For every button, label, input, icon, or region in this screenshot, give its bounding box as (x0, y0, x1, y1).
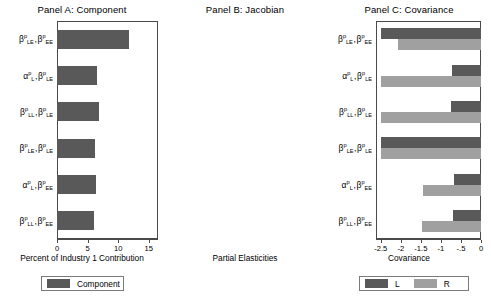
x-axis-line (57, 239, 158, 240)
bar-component (57, 66, 97, 85)
x-axis-tick-label: 15 (145, 244, 153, 253)
x-axis-tick-label: 0 (55, 244, 59, 253)
legend-swatch-component (47, 279, 70, 288)
category-label: αpL,βpEE (23, 180, 53, 189)
x-axis-tick (118, 240, 119, 243)
panel-c: Panel C: Covariance βpLE,βpEEαpL,βpLEβpL… (327, 0, 491, 303)
panel-a-category-labels: βpLE,βpEEαpL,βpLEβpLL,βpLEβpLE,βpLEαpL,β… (0, 21, 55, 239)
panel-c-title: Panel C: Covariance (327, 4, 491, 15)
panel-b-x-axis-title: Partial Elasticities (163, 253, 327, 263)
bar-component (57, 102, 99, 121)
x-axis-tick (57, 240, 58, 243)
x-axis-tick-label: 10 (114, 244, 122, 253)
panel-a-plot-area (57, 21, 158, 239)
category-label: βpLE,βpLE (20, 144, 54, 153)
category-label: αpL,βpLE (23, 71, 53, 80)
x-axis-tick-label: 5 (85, 244, 89, 253)
category-label: βpLE,βpEE (19, 35, 53, 44)
panel-a-legend: Component (41, 276, 124, 291)
panel-b: Panel B: Jacobian βpLE,βpEEαpL,βpLEβpLL,… (163, 0, 327, 303)
x-axis-tick (149, 240, 150, 243)
bar-component (57, 211, 94, 230)
category-label: βpLL,βpEE (19, 217, 53, 226)
panel-a: Panel A: Component βpLE,βpEEαpL,βpLEβpLL… (0, 0, 164, 303)
panel-b-title: Panel B: Jacobian (163, 4, 327, 15)
category-label: βpLL,βpLE (20, 108, 53, 117)
three-panel-bar-chart-figure: Panel A: Component βpLE,βpEEαpL,βpLEβpLL… (0, 0, 491, 303)
legend-label: Component (77, 279, 120, 289)
bar-component (57, 30, 129, 49)
panel-a-x-axis-title: Percent of Industry 1 Contribution (0, 253, 164, 263)
bar-component (57, 175, 96, 194)
bar-component (57, 139, 95, 158)
x-axis-tick (88, 240, 89, 243)
panel-a-title: Panel A: Component (0, 4, 164, 15)
panel-c-x-axis-title: Covariance (327, 253, 491, 263)
